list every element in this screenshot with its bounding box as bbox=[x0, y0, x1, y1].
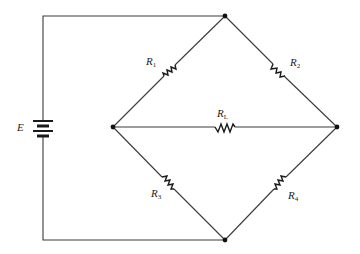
label-r4: R4 bbox=[288, 190, 298, 203]
resistor-r1 bbox=[113, 16, 225, 127]
label-r1: R1 bbox=[146, 56, 156, 69]
bridge-circuit-diagram: E R1 R2 RL R3 R4 bbox=[0, 0, 360, 254]
node-right bbox=[335, 125, 340, 130]
label-r3: R3 bbox=[151, 188, 161, 201]
resistor-r2 bbox=[225, 16, 337, 127]
wire-bottom bbox=[43, 136, 225, 240]
resistor-r3 bbox=[113, 127, 225, 240]
label-r2: R2 bbox=[290, 57, 300, 70]
node-top bbox=[223, 14, 228, 19]
resistor-r4 bbox=[225, 127, 337, 240]
resistor-rl bbox=[113, 124, 337, 132]
battery-icon bbox=[33, 121, 53, 136]
node-left bbox=[111, 125, 116, 130]
label-rl: RL bbox=[217, 108, 228, 121]
circuit-drawing bbox=[0, 0, 360, 254]
node-bottom bbox=[223, 238, 228, 243]
label-e: E bbox=[17, 122, 24, 133]
